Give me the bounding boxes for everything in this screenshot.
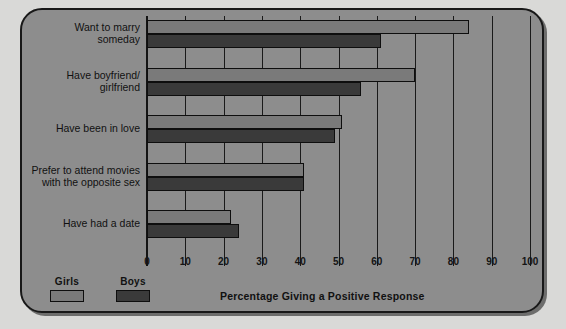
category-label-4: Have had a date: [0, 217, 140, 229]
category-label-line: Have boyfriend/: [0, 69, 140, 81]
x-axis-title: Percentage Giving a Positive Response: [220, 290, 425, 302]
x-tick-label-50: 50: [326, 256, 352, 267]
x-tick-label-30: 30: [249, 256, 275, 267]
chart-page: 0102030405060708090100 Want to marrysome…: [0, 0, 566, 329]
x-tick-label-80: 80: [440, 256, 466, 267]
x-tick-label-90: 90: [479, 256, 505, 267]
bar-girls-1: [147, 68, 415, 82]
category-label-line: Prefer to attend movies: [0, 164, 140, 176]
gridline-50: [339, 16, 340, 266]
bar-girls-3: [147, 163, 304, 177]
x-tick-label-40: 40: [287, 256, 313, 267]
bar-girls-4: [147, 210, 231, 224]
bar-boys-3: [147, 177, 304, 191]
category-label-line: someday: [0, 33, 140, 45]
category-label-line: with the opposite sex: [0, 176, 140, 188]
x-tick-label-60: 60: [364, 256, 390, 267]
legend-item-boys[interactable]: Boys: [113, 276, 153, 302]
legend-swatch-girls: [50, 290, 84, 302]
category-label-line: Have been in love: [0, 122, 140, 134]
bar-boys-1: [147, 82, 361, 96]
category-label-2: Have been in love: [0, 122, 140, 134]
bar-girls-2: [147, 115, 342, 129]
bar-boys-4: [147, 224, 239, 238]
x-tick-label-20: 20: [211, 256, 237, 267]
legend-swatch-boys: [116, 290, 150, 302]
category-label-line: Have had a date: [0, 217, 140, 229]
x-tick-label-10: 10: [172, 256, 198, 267]
gridline-100: [530, 16, 531, 266]
x-tick-label-100: 100: [517, 256, 543, 267]
gridline-60: [377, 16, 378, 266]
gridline-70: [415, 16, 416, 266]
category-label-0: Want to marrysomeday: [0, 21, 140, 45]
legend-label-boys: Boys: [113, 276, 153, 287]
x-tick-label-70: 70: [402, 256, 428, 267]
plot-area: 0102030405060708090100 Want to marrysome…: [0, 0, 566, 329]
gridline-80: [453, 16, 454, 266]
gridline-90: [492, 16, 493, 266]
x-tick-label-0: 0: [134, 256, 160, 267]
category-label-1: Have boyfriend/girlfriend: [0, 69, 140, 93]
bar-boys-0: [147, 34, 381, 48]
category-label-line: girlfriend: [0, 81, 140, 93]
category-label-3: Prefer to attend movieswith the opposite…: [0, 164, 140, 188]
bar-boys-2: [147, 129, 335, 143]
bar-girls-0: [147, 20, 469, 34]
legend-label-girls: Girls: [47, 276, 87, 287]
legend-item-girls[interactable]: Girls: [47, 276, 87, 302]
category-label-line: Want to marry: [0, 21, 140, 33]
